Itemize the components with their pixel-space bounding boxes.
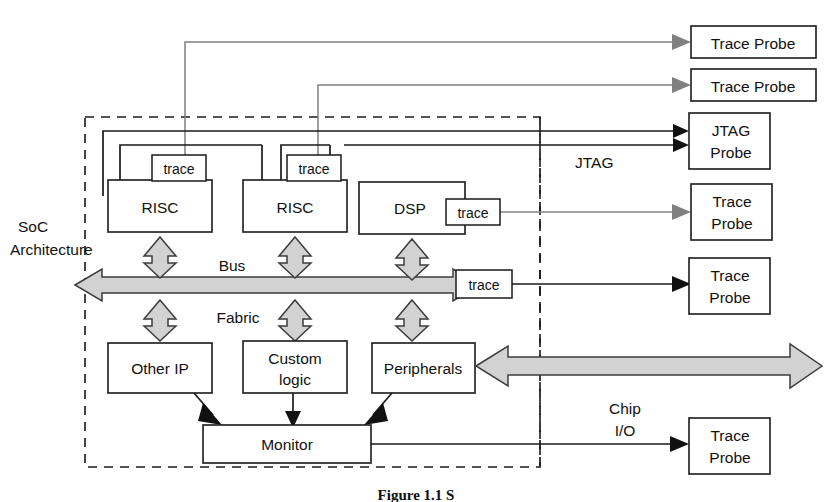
chip-io-label-line2: I/O bbox=[615, 422, 636, 439]
chip-io-label-line1: Chip bbox=[609, 400, 641, 417]
trace-block-risc-2-label: trace bbox=[298, 161, 329, 177]
jtag-chain-to-probe-arrowhead bbox=[673, 138, 689, 152]
probe-label-trace-probe-3-line2: Probe bbox=[711, 215, 752, 232]
block-monitor-label: Monitor bbox=[261, 436, 313, 453]
trace-wire-risc1-arrowhead bbox=[672, 34, 691, 50]
trace-block-dsp-label: trace bbox=[457, 205, 488, 221]
trace-wire-risc2-arrowhead bbox=[672, 77, 691, 93]
trace-wire-dsp-arrowhead bbox=[672, 204, 691, 220]
probe-label-trace-probe-4-line2: Probe bbox=[709, 289, 750, 306]
bus-label-line1: Bus bbox=[219, 257, 246, 274]
jtag-label: JTAG bbox=[575, 154, 613, 171]
trace-wire-risc2 bbox=[318, 85, 672, 168]
monitor-arrowhead-other-ip bbox=[198, 403, 222, 425]
block-risc-2-label: RISC bbox=[276, 199, 313, 216]
block-dsp-label: DSP bbox=[394, 200, 426, 217]
probe-label-trace-probe-1: Trace Probe bbox=[711, 35, 796, 52]
block-peripherals-label: Peripherals bbox=[384, 360, 463, 377]
block-custom-logic-label-line2: logic bbox=[279, 371, 311, 388]
trace-block-bus-label: trace bbox=[468, 277, 499, 293]
probe-label-jtag-probe-line2: Probe bbox=[710, 144, 751, 161]
monitor-output-arrowhead bbox=[670, 436, 689, 452]
probe-label-trace-probe-3-line1: Trace bbox=[712, 193, 751, 210]
block-custom-logic-label-line1: Custom bbox=[268, 350, 321, 367]
probe-label-trace-probe-5-line1: Trace bbox=[710, 427, 749, 444]
figure-caption: Figure 1.1 S bbox=[0, 486, 832, 502]
probe-label-jtag-probe-line1: JTAG bbox=[712, 122, 750, 139]
bus-connector-risc-2 bbox=[279, 237, 311, 278]
bus-trace-wire-arrowhead bbox=[672, 276, 691, 292]
bus-connector-other-ip bbox=[144, 300, 176, 341]
block-other-ip-label: Other IP bbox=[131, 360, 189, 377]
soc-architecture-diagram: RISC trace RISC trace DSP trace Bus Fabr… bbox=[0, 0, 832, 502]
bus-connector-risc-1 bbox=[144, 237, 176, 278]
chip-io-arrow bbox=[476, 344, 822, 388]
probe-label-trace-probe-5-line2: Probe bbox=[709, 449, 750, 466]
bus-label-line2: Fabric bbox=[216, 309, 259, 326]
probe-label-trace-probe-4-line1: Trace bbox=[710, 267, 749, 284]
bus-connector-peripherals bbox=[396, 300, 428, 341]
trace-block-risc-1-label: trace bbox=[163, 161, 194, 177]
monitor-arrowhead-peripherals bbox=[364, 403, 388, 425]
bus-connector-custom-logic bbox=[279, 300, 311, 341]
block-risc-1-label: RISC bbox=[141, 199, 178, 216]
soc-label-line2: Architecture bbox=[10, 241, 93, 258]
bus-connector-dsp bbox=[396, 239, 428, 280]
soc-label-line1: SoC bbox=[18, 218, 48, 235]
trace-wire-risc1 bbox=[185, 42, 672, 168]
jtag-chain-outer-arrowhead bbox=[673, 124, 689, 138]
probe-label-trace-probe-2: Trace Probe bbox=[711, 78, 796, 95]
diagram-canvas: RISC trace RISC trace DSP trace Bus Fabr… bbox=[0, 0, 832, 502]
